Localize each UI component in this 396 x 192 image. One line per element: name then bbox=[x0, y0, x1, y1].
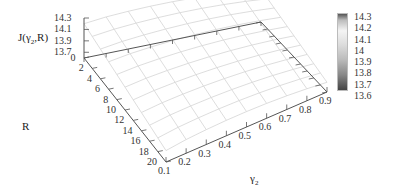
colorbar-tick-label: 14.2 bbox=[354, 23, 372, 33]
colorbar-tick-label: 13.8 bbox=[354, 68, 372, 78]
colorbar-tick-label: 14 bbox=[354, 46, 364, 56]
gamma-tick-label: 0.2 bbox=[178, 157, 191, 167]
gamma-tick-label: 0.4 bbox=[218, 140, 231, 150]
gamma-tick-label: 0.5 bbox=[239, 131, 252, 141]
r-tick-label: 2 bbox=[79, 63, 84, 73]
gamma-tick-label: 0.9 bbox=[319, 96, 332, 106]
gamma-tick-label: 0.1 bbox=[158, 166, 171, 176]
z-tick-label: 14.3 bbox=[54, 13, 72, 23]
gamma-tick-label: 0.6 bbox=[259, 122, 272, 132]
r-tick-label: 4 bbox=[87, 74, 92, 84]
z-tick-label: 14.1 bbox=[54, 24, 72, 34]
colorbar-tick-label: 13.7 bbox=[354, 80, 372, 90]
colorbar-tick-label: 14.1 bbox=[354, 35, 372, 45]
z-tick-label: 13.9 bbox=[54, 36, 72, 46]
colorbar-tick-label: 13.9 bbox=[354, 57, 372, 67]
z-tick-label: 13.7 bbox=[54, 47, 72, 57]
r-tick-label: 12 bbox=[114, 115, 124, 125]
gamma-tick-label: 0.3 bbox=[198, 149, 211, 159]
r-tick-label: 16 bbox=[131, 136, 141, 146]
colorbar-tick-label: 14.3 bbox=[354, 12, 372, 22]
colorbar-tick-label: 13.6 bbox=[354, 91, 372, 101]
z-axis-title: J(γ2,R) bbox=[18, 32, 48, 48]
r-tick-label: 20 bbox=[147, 157, 157, 167]
x-axis-title: γ2 bbox=[250, 173, 258, 189]
gamma-tick-label: 0.8 bbox=[299, 105, 312, 115]
surface-mesh bbox=[84, 0, 327, 151]
colorbar bbox=[337, 13, 348, 91]
r-tick-label: 0 bbox=[71, 53, 76, 63]
gamma-tick-label: 0.7 bbox=[279, 114, 292, 124]
r-tick-label: 6 bbox=[95, 84, 100, 94]
y-axis-title: R bbox=[22, 121, 29, 132]
